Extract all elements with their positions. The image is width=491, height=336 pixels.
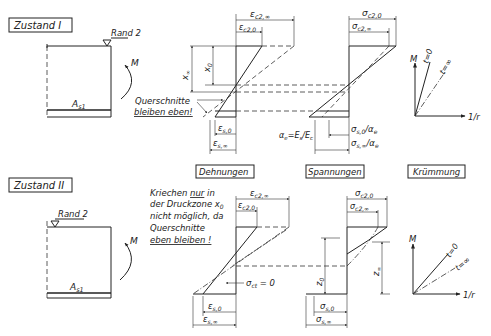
state2-t0-label: t=0	[444, 242, 460, 259]
state2-cross-section: As1	[47, 221, 111, 300]
state1-cross-section: As1	[47, 44, 111, 117]
state2-creep-note: Kriechen nur in der Druckzone x0 nicht m…	[150, 188, 224, 245]
svg-text:Rand 2: Rand 2	[58, 209, 88, 219]
svg-text:M: M	[410, 54, 418, 64]
state2-stress-diagram: σc2,0 σc2,∞ z0 z∞ σs,0 σs,∞	[306, 188, 390, 328]
state1-edge-marker: Rand 2	[103, 28, 141, 46]
state2-z0-label: z0	[314, 278, 325, 287]
state1-t0-label: t=0	[421, 48, 434, 65]
state1-strain-diagram: εc2,∞ εc2,0 x∞ x0 εs,0 εs,∞	[180, 9, 294, 154]
state2-sc2-inf-label: σc2,∞	[350, 202, 369, 212]
svg-text:eben bleiben !: eben bleiben !	[150, 235, 211, 245]
state2-ec2-inf-label: εc2,∞	[250, 188, 269, 199]
state1-ec2-inf-label: εc2,∞	[250, 9, 270, 21]
state1-plane-sections-note: Querschnitte bleiben eben!	[134, 96, 223, 117]
state2-steel-label: As1	[69, 282, 84, 294]
state1-es-inf-label: εs,∞	[213, 138, 228, 149]
state2-ec2-0-label: εc2,0	[238, 201, 255, 211]
state1-ec2-0-label: εc2,0	[239, 23, 256, 33]
state1-tinf-label: t=∞	[438, 57, 454, 76]
state1-sc2-0-label: σc2,0	[362, 8, 382, 20]
state2-tinf-label: t=∞	[454, 255, 472, 273]
state1-curvature-diagram: M 1/r t=0 t=∞	[410, 48, 480, 122]
svg-text:bleiben eben!: bleiben eben!	[134, 107, 193, 117]
state1-steel-label: As1	[71, 99, 86, 111]
state1-ssinf-ae-label: σs,∞/αe	[351, 138, 379, 149]
state1-ss0-ae-label: σs,0/αe	[351, 124, 378, 135]
svg-text:M: M	[131, 58, 139, 68]
state1-alpha-e-equation: αe=Es/Ec	[279, 131, 313, 141]
state2-es-0-label: εs,0	[208, 301, 222, 312]
state1-x-inf-label: x∞	[180, 70, 191, 81]
state2-ss0-label: σs,0	[320, 301, 334, 312]
svg-text:Querschnitte: Querschnitte	[150, 223, 205, 233]
state2-curvature-diagram: M 1/r t=0 t=∞	[409, 234, 475, 300]
state2-es-inf-label: εs,∞	[203, 314, 218, 325]
header-strain: Dehnungen	[196, 165, 254, 178]
header-stress: Spannungen	[306, 165, 364, 178]
state2-zinf-label: z∞	[371, 267, 382, 277]
state2-title: Zustand II	[9, 178, 72, 192]
svg-text:M: M	[409, 234, 417, 244]
state1-sc2-inf-label: σc2,∞	[352, 21, 371, 32]
state2-moment-arrow-icon: M	[120, 236, 138, 280]
svg-text:Spannungen: Spannungen	[308, 167, 362, 177]
svg-text:Zustand II: Zustand II	[13, 180, 64, 191]
state1-title: Zustand I	[9, 18, 72, 32]
state2-ssinf-label: σs,∞	[316, 314, 331, 325]
svg-text:1/r: 1/r	[463, 290, 475, 300]
header-curvature: Krümmung	[408, 165, 465, 178]
state2-edge-marker: Rand 2	[51, 209, 88, 227]
svg-text:nicht möglich, da: nicht möglich, da	[150, 211, 224, 221]
svg-text:Zustand I: Zustand I	[13, 20, 61, 31]
state2-sct-label: σct = 0	[246, 278, 275, 289]
state1-moment-arrow-icon: M	[121, 58, 139, 99]
svg-text:Dehnungen: Dehnungen	[199, 167, 248, 177]
svg-text:M: M	[130, 236, 138, 246]
svg-text:Querschnitte: Querschnitte	[135, 96, 190, 106]
state2-sc2-0-label: σc2,0	[355, 188, 373, 199]
state1-es-0-label: εs,0	[218, 123, 232, 134]
svg-text:Rand 2: Rand 2	[111, 28, 141, 38]
svg-text:Krümmung: Krümmung	[413, 167, 461, 177]
creep-diagram: Zustand I As1 Rand 2 M εc2,∞	[0, 0, 491, 336]
svg-text:Kriechen nur in: Kriechen nur in	[150, 188, 215, 198]
svg-text:1/r: 1/r	[468, 112, 480, 122]
svg-text:der Druckzone x0: der Druckzone x0	[150, 199, 224, 210]
state1-stress-diagram: σc2,0 σc2,∞ σs,0/αe σs,∞/αe αe=Es/Ec	[236, 8, 396, 154]
state1-x-0-label: x0	[202, 63, 213, 73]
